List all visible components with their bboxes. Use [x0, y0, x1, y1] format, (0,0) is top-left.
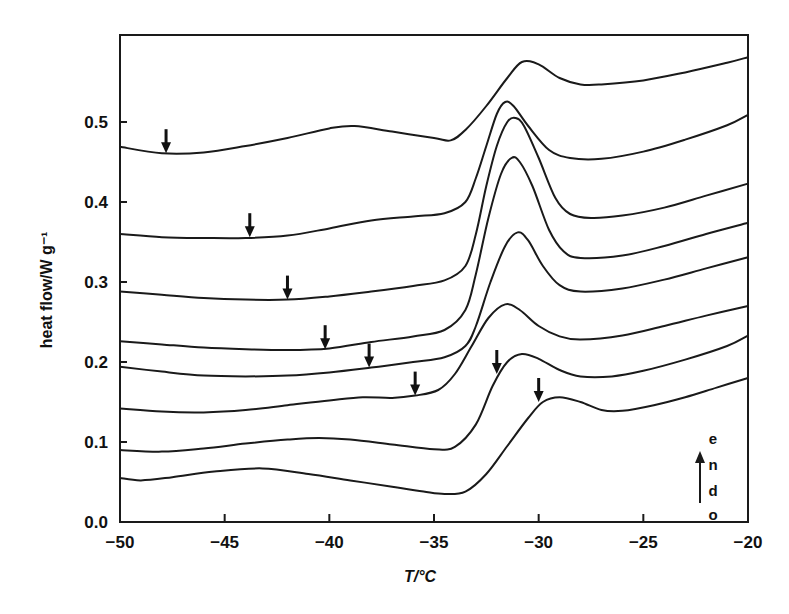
y-tick-label: 0.4 — [84, 193, 108, 212]
dsc-curve-8 — [120, 378, 748, 494]
dsc-curve-5 — [120, 232, 748, 376]
curves-group — [120, 57, 748, 494]
down-arrow-icon — [282, 276, 292, 300]
endo-letter-o: o — [708, 506, 717, 523]
endo-letter-d: d — [708, 482, 717, 499]
y-axis-title: heat flow/W g⁻¹ — [38, 232, 55, 348]
dsc-curve-3 — [120, 118, 748, 300]
y-tick-label: 0.0 — [84, 513, 108, 532]
endo-arrowhead-icon — [695, 451, 705, 463]
x-tick-label: −50 — [106, 533, 135, 552]
dsc-curve-2 — [120, 102, 748, 239]
dsc-chart: −50−45−40−35−30−25−20 0.00.10.20.30.40.5… — [0, 0, 789, 614]
x-tick-label: −35 — [420, 533, 449, 552]
dsc-curve-4 — [120, 157, 748, 350]
down-arrow-icon — [161, 129, 171, 153]
down-arrow-icon — [320, 325, 330, 349]
dsc-curve-7 — [120, 336, 748, 452]
y-tick-label: 0.1 — [84, 433, 108, 452]
transition-arrows-group — [161, 129, 544, 402]
y-tick-label: 0.3 — [84, 273, 108, 292]
x-axis-title: T/°C — [404, 568, 437, 585]
down-arrow-icon — [364, 344, 374, 368]
x-tick-label: −40 — [315, 533, 344, 552]
down-arrow-icon — [245, 213, 255, 237]
endo-letter-n: n — [708, 456, 717, 473]
down-arrow-icon — [410, 372, 420, 396]
x-tick-label: −20 — [734, 533, 763, 552]
x-axis: −50−45−40−35−30−25−20 — [106, 514, 763, 552]
down-arrow-icon — [534, 378, 544, 402]
y-tick-label: 0.5 — [84, 113, 108, 132]
x-tick-label: −25 — [629, 533, 658, 552]
endo-annotation: e n d o — [695, 430, 718, 523]
x-tick-label: −30 — [524, 533, 553, 552]
x-tick-label: −45 — [210, 533, 239, 552]
y-tick-label: 0.2 — [84, 353, 108, 372]
dsc-curve-6 — [120, 304, 748, 412]
endo-letter-e: e — [709, 430, 717, 447]
dsc-curve-1 — [120, 57, 748, 153]
